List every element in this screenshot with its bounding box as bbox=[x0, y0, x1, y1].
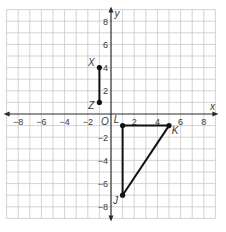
y-tick-label: 4 bbox=[103, 63, 108, 73]
x-tick-label: 6 bbox=[178, 117, 183, 127]
y-axis-label: y bbox=[114, 8, 121, 19]
x-tick-label: −2 bbox=[83, 117, 93, 127]
y-tick-label: −8 bbox=[98, 202, 108, 212]
origin-label: O bbox=[101, 116, 109, 127]
point-X bbox=[97, 65, 102, 70]
point-Z bbox=[97, 100, 102, 105]
x-axis-label: x bbox=[209, 101, 216, 112]
coordinate-grid-svg: −8−6−4−22468−8−6−4−22468Oxy XZLKJ bbox=[0, 0, 226, 232]
y-tick-label: 2 bbox=[103, 86, 108, 96]
tick-labels: −8−6−4−22468−8−6−4−22468Oxy bbox=[13, 8, 216, 213]
y-tick-label: −4 bbox=[98, 156, 108, 166]
point-label-Z: Z bbox=[87, 100, 95, 111]
point-label-X: X bbox=[87, 57, 95, 68]
coordinate-plane: −8−6−4−22468−8−6−4−22468Oxy XZLKJ bbox=[0, 0, 226, 232]
x-tick-label: −6 bbox=[36, 117, 46, 127]
y-tick-label: −6 bbox=[98, 179, 108, 189]
x-tick-label: −8 bbox=[13, 117, 23, 127]
point-label-J: J bbox=[112, 195, 119, 206]
x-tick-label: 8 bbox=[201, 117, 206, 127]
point-L bbox=[120, 123, 125, 128]
point-J bbox=[120, 193, 125, 198]
x-tick-label: −4 bbox=[59, 117, 69, 127]
point-label-L: L bbox=[114, 114, 120, 125]
y-tick-label: −2 bbox=[98, 133, 108, 143]
axes bbox=[4, 7, 219, 222]
y-tick-label: 8 bbox=[103, 17, 108, 27]
y-tick-label: 6 bbox=[103, 40, 108, 50]
